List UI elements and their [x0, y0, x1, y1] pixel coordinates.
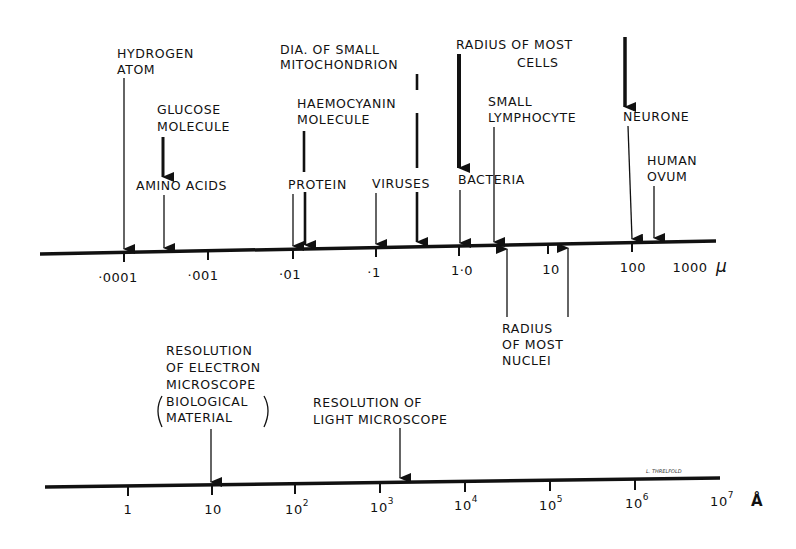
- annotation-bacteria: BACTERIA: [458, 172, 525, 243]
- tick-label: 1000: [672, 260, 707, 275]
- tick-label: 106: [625, 492, 649, 511]
- tick-label: ·01: [279, 267, 301, 282]
- svg-text:BACTERIA: BACTERIA: [458, 172, 525, 187]
- tick-label: ·1: [367, 265, 380, 280]
- svg-text:SMALL: SMALL: [488, 94, 532, 109]
- annotation-light-microscope-resolution: RESOLUTION OF LIGHT MICROSCOPE: [313, 395, 448, 478]
- tick-label: ·001: [188, 268, 219, 283]
- svg-text:OF MOST: OF MOST: [502, 337, 563, 352]
- upper-axis-tick-labels: ·0001 ·001 ·01 ·1 1·0 10 100 1000 µ: [98, 256, 727, 285]
- tick-label: 102: [285, 498, 309, 517]
- tick-label: 105: [539, 494, 563, 513]
- lower-axis-tick-labels: 1 10 102 103 104 105 106 107 Å: [124, 490, 764, 517]
- svg-text:NEURONE: NEURONE: [623, 109, 689, 124]
- tick-label: 10: [204, 502, 222, 517]
- annotation-hydrogen-atom: HYDROGEN ATOM: [117, 46, 194, 249]
- upper-axis-line: [40, 241, 716, 254]
- tick-label: ·0001: [98, 270, 138, 285]
- artist-signature: L. THRELFOLD: [646, 468, 682, 474]
- annotation-amino-acids: AMINO ACIDS: [136, 178, 227, 248]
- svg-text:ATOM: ATOM: [117, 62, 155, 77]
- size-scale-diagram: ·0001 ·001 ·01 ·1 1·0 10 100 1000 µ HYDR…: [0, 0, 796, 549]
- svg-text:RADIUS: RADIUS: [502, 321, 553, 336]
- svg-text:MOLECULE: MOLECULE: [157, 119, 230, 134]
- tick-label: 10: [542, 262, 560, 277]
- svg-text:CELLS: CELLS: [517, 55, 559, 70]
- annotation-radius-of-most-cells: RADIUS OF MOST CELLS: [456, 37, 625, 168]
- svg-text:DIA. OF SMALL: DIA. OF SMALL: [280, 42, 380, 57]
- right-paren: [264, 396, 268, 427]
- annotation-electron-microscope-resolution: RESOLUTION OF ELECTRON MICROSCOPE BIOLOG…: [158, 343, 268, 482]
- tick-label: 104: [454, 494, 478, 513]
- svg-text:AMINO ACIDS: AMINO ACIDS: [136, 178, 227, 193]
- annotation-protein: PROTEIN: [288, 177, 347, 246]
- tick-label: 1·0: [451, 263, 473, 278]
- svg-text:RESOLUTION: RESOLUTION: [166, 343, 252, 358]
- svg-text:MICROSCOPE: MICROSCOPE: [166, 377, 256, 392]
- svg-text:MATERIAL: MATERIAL: [166, 410, 233, 425]
- svg-text:LIGHT MICROSCOPE: LIGHT MICROSCOPE: [313, 412, 448, 427]
- svg-text:OVUM: OVUM: [647, 169, 688, 184]
- annotation-human-ovum: HUMAN OVUM: [647, 153, 697, 238]
- svg-text:NUCLEI: NUCLEI: [502, 353, 551, 368]
- tick-label: 103: [370, 496, 394, 515]
- tick-label: 100: [620, 260, 646, 275]
- svg-text:RADIUS OF MOST: RADIUS OF MOST: [456, 37, 573, 52]
- lower-axis-line: [45, 478, 720, 487]
- svg-text:VIRUSES: VIRUSES: [372, 176, 430, 191]
- annotation-viruses: VIRUSES: [372, 176, 430, 244]
- tick-label: 107: [710, 490, 734, 509]
- svg-text:HYDROGEN: HYDROGEN: [117, 46, 194, 61]
- tick-label: 1: [124, 502, 133, 517]
- annotation-haemocyanin-molecule: HAEMOCYANIN MOLECULE: [297, 96, 396, 245]
- svg-text:OF ELECTRON: OF ELECTRON: [166, 360, 261, 375]
- svg-text:HUMAN: HUMAN: [647, 153, 697, 168]
- annotation-glucose-molecule: GLUCOSE MOLECULE: [157, 102, 230, 177]
- svg-text:MITOCHONDRION: MITOCHONDRION: [280, 57, 398, 72]
- left-paren: [158, 396, 162, 427]
- svg-text:RESOLUTION OF: RESOLUTION OF: [313, 395, 422, 410]
- arrow-icon: [628, 126, 632, 239]
- svg-text:BIOLOGICAL: BIOLOGICAL: [166, 394, 248, 409]
- svg-text:MOLECULE: MOLECULE: [297, 112, 370, 127]
- svg-text:LYMPHOCYTE: LYMPHOCYTE: [488, 110, 576, 125]
- annotation-small-lymphocyte: SMALL LYMPHOCYTE: [488, 94, 576, 242]
- annotation-small-mitochondrion: DIA. OF SMALL MITOCHONDRION: [280, 42, 417, 242]
- svg-text:PROTEIN: PROTEIN: [288, 177, 347, 192]
- micron-unit-label: µ: [715, 256, 727, 276]
- angstrom-unit-label: Å: [751, 491, 763, 510]
- svg-text:HAEMOCYANIN: HAEMOCYANIN: [297, 96, 396, 111]
- svg-text:GLUCOSE: GLUCOSE: [157, 102, 221, 117]
